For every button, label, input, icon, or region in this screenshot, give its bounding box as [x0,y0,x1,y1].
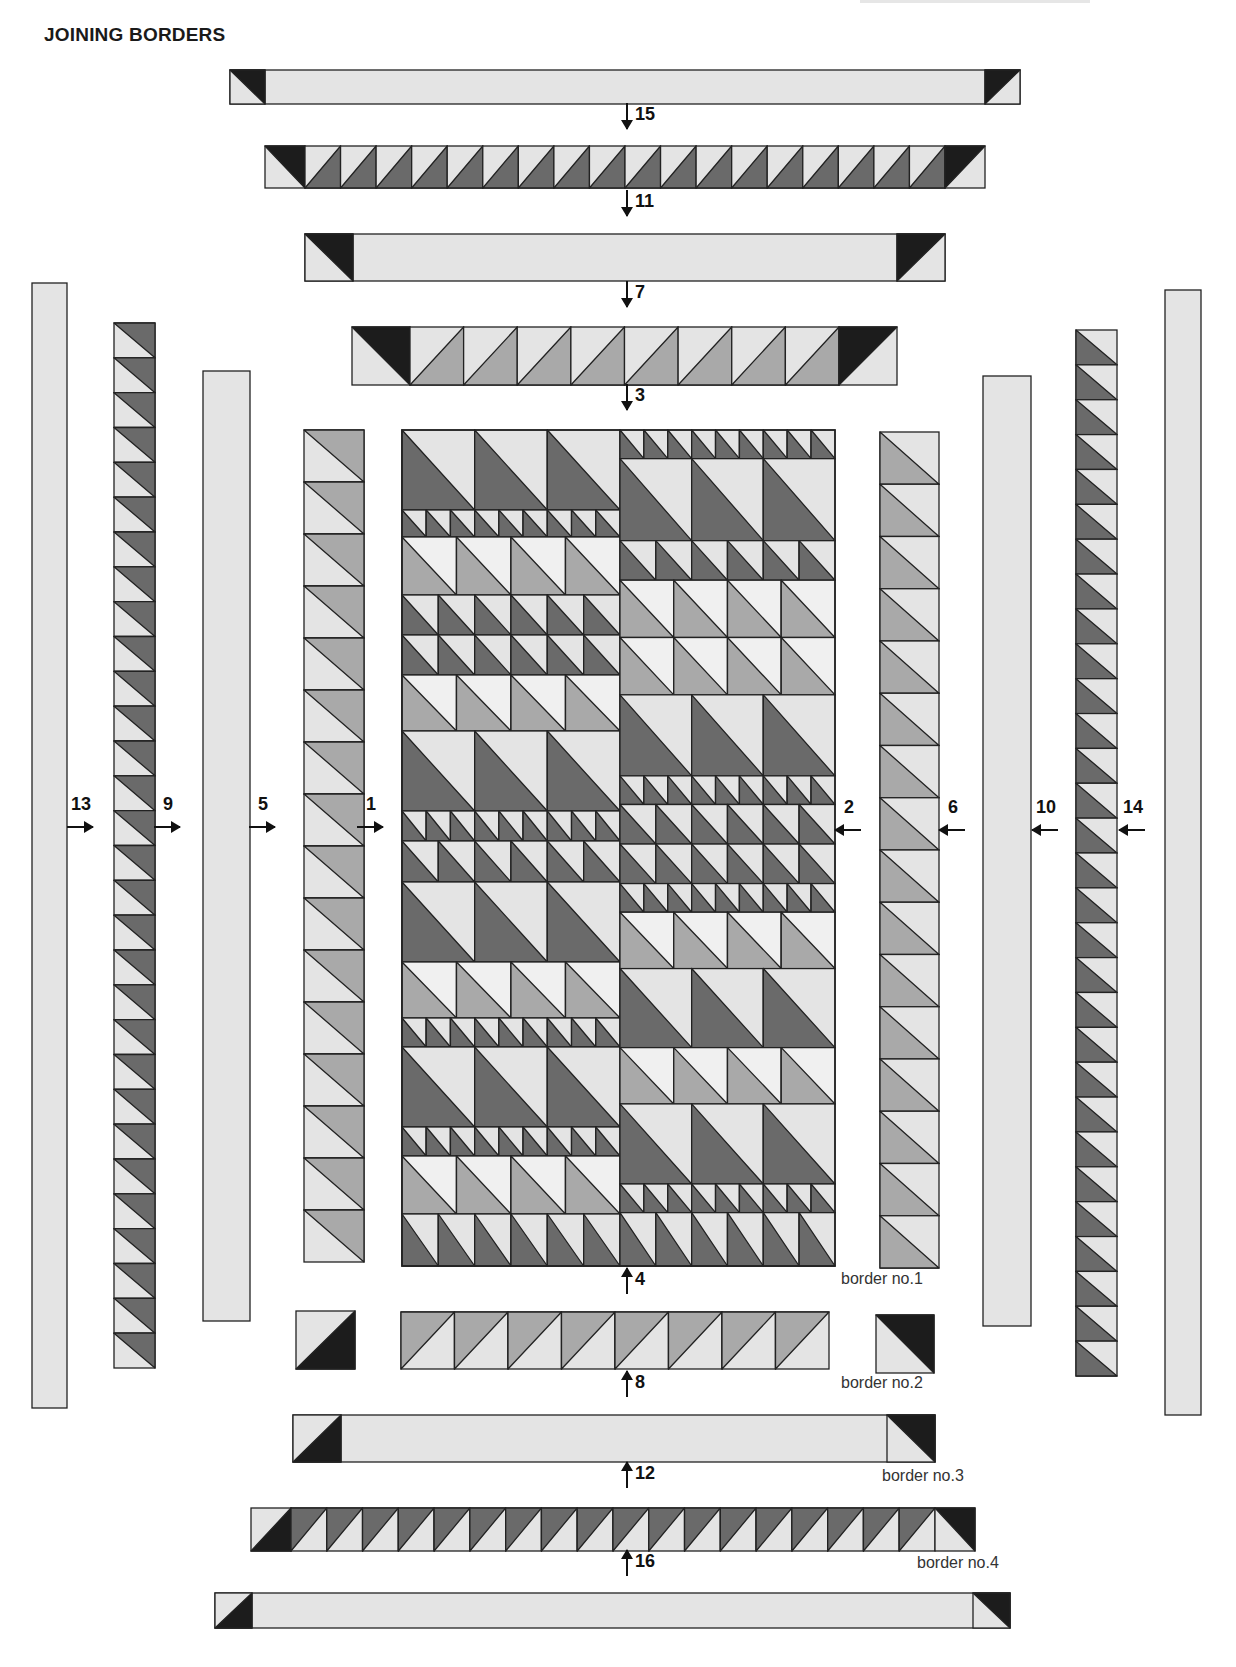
horizontal-strip-15-top-plain [230,70,1020,104]
step-label-14: 14 [1122,797,1144,818]
horizontal-strip-16 [215,1593,1010,1628]
step-label-8: 8 [635,1372,645,1393]
horizontal-strip-8 [293,1415,935,1462]
step-label-9: 9 [157,794,179,815]
border-label-2: border no.2 [841,1374,923,1392]
horizontal-strip-4 [401,1312,829,1369]
step-label-5: 5 [252,794,274,815]
horizontal-strip-11 [305,234,945,281]
vertical-strip-5 [304,430,364,1262]
step-label-15: 15 [635,104,655,125]
step-label-6: 6 [942,797,964,818]
vertical-strip-10-hst [1076,330,1117,1376]
step-label-4: 4 [635,1269,645,1290]
vertical-strip-13 [32,283,67,1408]
border-label-4: border no.4 [917,1554,999,1572]
border-label-3: border no.3 [882,1467,964,1485]
border-label-1: border no.1 [841,1270,923,1288]
step-label-10: 10 [1035,797,1057,818]
vertical-strip-6 [983,376,1031,1326]
horizontal-strip-12 [251,1508,975,1551]
step-label-3: 3 [635,385,645,406]
step-label-2: 2 [838,797,860,818]
vertical-strip-14 [1165,290,1201,1415]
vertical-strip-13-hst [114,323,155,1368]
horizontal-strip-7 [352,327,897,385]
step-label-7: 7 [635,282,645,303]
vertical-strip-9 [203,371,250,1321]
border1-left-corner [296,1311,355,1369]
quilt-border-diagram [0,0,1236,1667]
step-label-16: 16 [635,1551,655,1572]
vertical-strip-2 [880,432,939,1268]
step-label-13: 13 [70,794,92,815]
quilt-center [402,430,835,1266]
step-label-12: 12 [635,1463,655,1484]
border1-right-corner [876,1315,934,1373]
step-label-1: 1 [360,794,382,815]
horizontal-strip-15 [265,146,985,188]
step-label-11: 11 [635,191,654,212]
